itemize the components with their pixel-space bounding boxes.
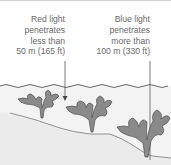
diagram-graphic: [0, 0, 171, 165]
light-penetration-diagram: Red light penetrates less than 50 m (165…: [0, 0, 171, 165]
